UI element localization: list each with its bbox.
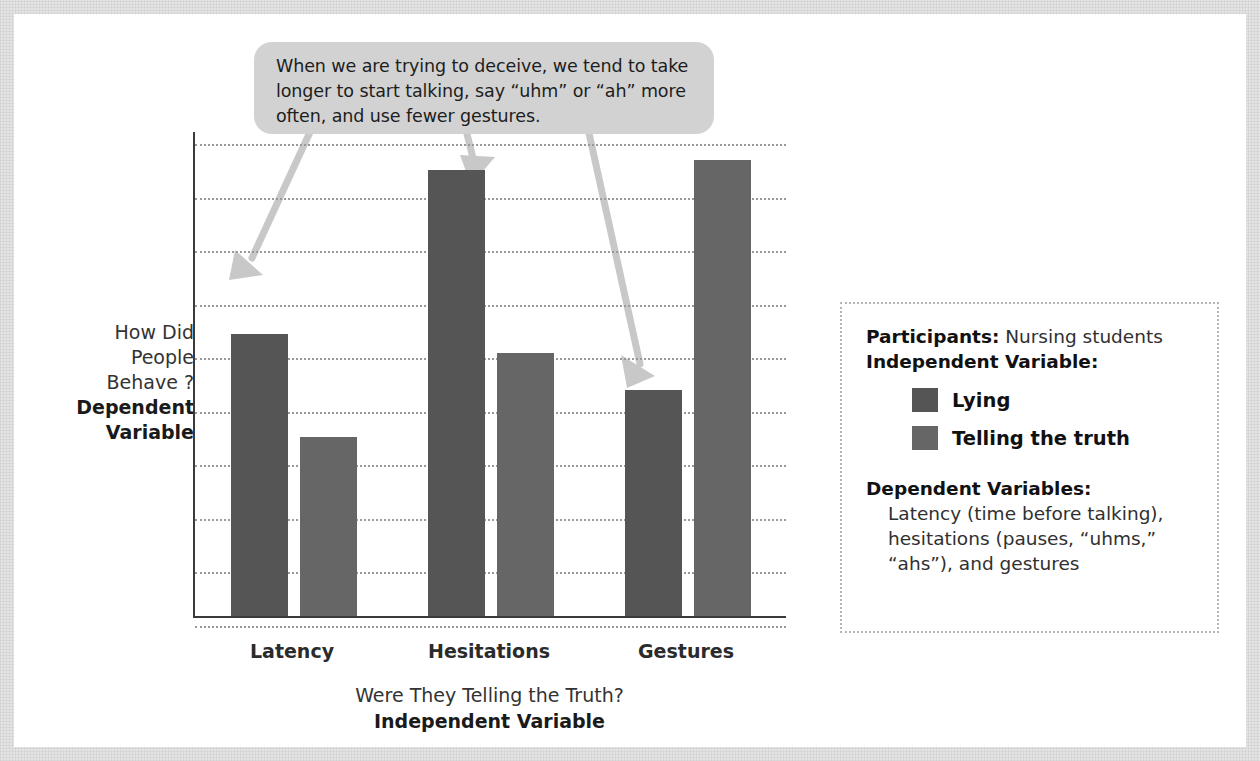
x-axis-label-gestures: Gestures <box>596 640 776 662</box>
x-axis-title-plain: Were They Telling the Truth? <box>355 684 624 706</box>
x-axis-title: Were They Telling the Truth? Independent… <box>193 682 786 734</box>
x-axis-line <box>193 616 786 618</box>
gridline <box>195 626 786 628</box>
legend-label: Telling the truth <box>952 427 1130 450</box>
x-axis-title-bold: Independent Variable <box>374 710 605 732</box>
legend-label: Lying <box>952 389 1010 412</box>
y-axis-title: How Did People Behave ? Dependent Variab… <box>66 320 194 445</box>
bar-group <box>195 132 786 616</box>
participants-label: Participants: <box>866 326 999 347</box>
independent-variable-heading: Independent Variable: <box>866 349 1199 374</box>
legend-items: LyingTelling the truth <box>866 388 1199 450</box>
participants-value: Nursing students <box>1005 326 1163 347</box>
legend-swatch-icon <box>912 388 938 412</box>
bar-gestures-telling-the-truth <box>694 160 751 616</box>
info-legend-box: Participants: Nursing students Independe… <box>840 302 1219 633</box>
plot-area <box>193 132 786 618</box>
dv-label: Dependent Variables: <box>866 478 1091 499</box>
callout-bubble: When we are trying to deceive, we tend t… <box>254 42 714 134</box>
x-axis-category-labels: LatencyHesitationsGestures <box>193 640 786 666</box>
x-axis-label-hesitations: Hesitations <box>399 640 579 662</box>
dependent-variables-heading: Dependent Variables: <box>866 476 1199 501</box>
y-axis-title-bold: Dependent Variable <box>76 396 194 443</box>
bar-hesitations-lying <box>428 170 485 616</box>
dv-value: Latency (time before talking), hesitatio… <box>866 501 1199 576</box>
bar-gestures-lying <box>625 390 682 616</box>
bar-hesitations-telling-the-truth <box>497 353 554 616</box>
legend-row: Lying <box>912 388 1199 412</box>
callout-text: When we are trying to deceive, we tend t… <box>276 54 694 129</box>
iv-label: Independent Variable: <box>866 351 1098 372</box>
image-frame: When we are trying to deceive, we tend t… <box>0 0 1260 761</box>
legend-row: Telling the truth <box>912 426 1199 450</box>
figure-card: When we are trying to deceive, we tend t… <box>14 14 1246 747</box>
bar-latency-telling-the-truth <box>300 437 357 616</box>
y-axis-title-plain: How Did People Behave ? <box>107 321 194 393</box>
x-axis-label-latency: Latency <box>202 640 382 662</box>
participants-line: Participants: Nursing students <box>866 324 1199 349</box>
bar-latency-lying <box>231 334 288 616</box>
legend-swatch-icon <box>912 426 938 450</box>
